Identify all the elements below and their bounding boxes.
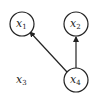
node-x2: x2	[64, 12, 88, 36]
graph-diagram: x1 x2 x3 x4	[0, 0, 94, 100]
node-x1: x1	[10, 12, 34, 36]
node-x4: x4	[64, 68, 88, 92]
node-x3: x3	[10, 68, 34, 92]
edge-x4-x1	[30, 32, 67, 72]
